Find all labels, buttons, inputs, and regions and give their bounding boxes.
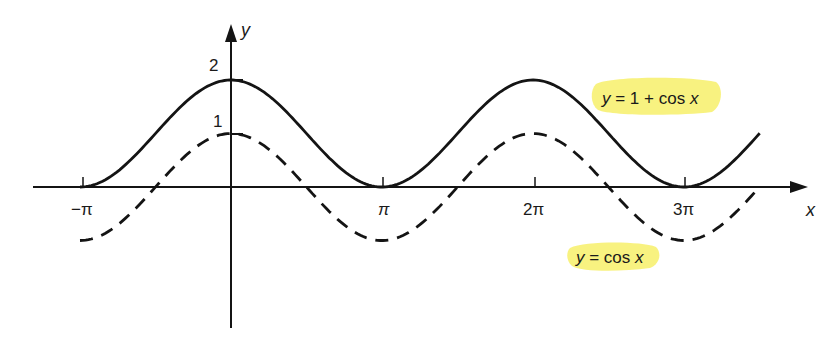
y-ticks bbox=[231, 80, 243, 134]
y-axis bbox=[225, 24, 237, 328]
x-ticks bbox=[83, 177, 685, 187]
x-tick-label-neg-pi: −π bbox=[71, 200, 93, 219]
x-axis-label: x bbox=[805, 200, 816, 220]
y-tick-label-2: 2 bbox=[209, 56, 218, 75]
y-tick-label-1: 1 bbox=[213, 112, 222, 131]
y-axis-arrow-icon bbox=[225, 24, 237, 42]
cosine-graph: −π π 2π 3π 1 2 x y y = 1 + cos x y = cos… bbox=[0, 0, 839, 348]
equation-dashed-label: y = cos x bbox=[575, 248, 644, 267]
equation-solid-label: y = 1 + cos x bbox=[601, 89, 699, 108]
x-tick-label-2pi: 2π bbox=[523, 200, 544, 219]
x-tick-label-pi: π bbox=[378, 200, 390, 219]
y-axis-label: y bbox=[239, 20, 251, 40]
x-tick-label-3pi: 3π bbox=[673, 200, 694, 219]
x-axis-arrow-icon bbox=[790, 181, 808, 193]
